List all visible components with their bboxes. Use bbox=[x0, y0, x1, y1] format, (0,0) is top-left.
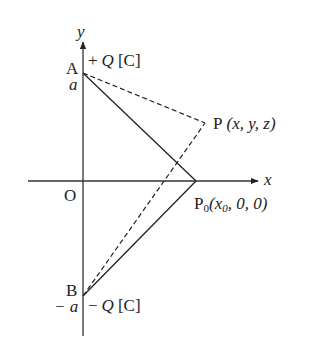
point-p-coords: (x, y, z) bbox=[226, 114, 275, 133]
charge-a-label: + Q [C] bbox=[88, 52, 141, 69]
charge-a-unit: [C] bbox=[118, 51, 141, 70]
point-p0-label: P0(x0, 0, 0) bbox=[194, 195, 267, 214]
charge-b-unit: [C] bbox=[118, 296, 141, 315]
point-p-label: P (x, y, z) bbox=[213, 115, 276, 132]
origin-label: O bbox=[64, 187, 76, 204]
y-axis-label: y bbox=[77, 23, 85, 40]
coordinate-diagram bbox=[0, 0, 309, 340]
point-a-coord: a bbox=[69, 76, 78, 93]
charge-b-sign: − bbox=[88, 296, 98, 315]
charge-b-label: − Q [C] bbox=[88, 297, 141, 314]
point-b-coord: − a bbox=[54, 298, 78, 315]
x-axis-label: x bbox=[264, 171, 272, 188]
point-p0-coords-open: (x bbox=[209, 194, 222, 213]
charge-a-sign: + bbox=[88, 51, 98, 70]
dashed-line-b-p bbox=[83, 123, 205, 296]
dashed-line-a-p bbox=[83, 73, 205, 123]
point-p0-coords-rest: , 0, 0) bbox=[228, 194, 268, 213]
point-p-name: P bbox=[213, 114, 222, 133]
line-b-p0 bbox=[83, 181, 196, 296]
line-a-p0 bbox=[83, 73, 196, 181]
charge-a-symbol: Q bbox=[102, 51, 114, 70]
charge-b-symbol: Q bbox=[102, 296, 114, 315]
